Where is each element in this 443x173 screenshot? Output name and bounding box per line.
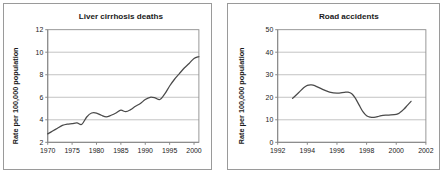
svg-text:2: 2 [39, 139, 43, 146]
svg-text:1994: 1994 [300, 147, 316, 154]
liver-cirrhosis-chart: Liver cirrhosis deaths Rate per 100,000 … [4, 4, 211, 169]
svg-text:10: 10 [266, 116, 274, 123]
svg-text:12: 12 [36, 26, 44, 33]
svg-text:1970: 1970 [40, 147, 56, 154]
svg-text:6: 6 [39, 94, 43, 101]
figure-container: Liver cirrhosis deaths Rate per 100,000 … [0, 0, 443, 173]
y-axis-label-road-accidents: Rate per 100,000 population [237, 47, 246, 144]
svg-text:0: 0 [269, 139, 273, 146]
svg-text:20: 20 [266, 94, 274, 101]
x-axis-ticks-road-accidents: 199219941996199820002002 [270, 142, 434, 154]
svg-text:1998: 1998 [359, 147, 375, 154]
chart-panel-road-accidents: Road accidents Rate per 100,000 populati… [227, 3, 440, 170]
svg-text:8: 8 [39, 71, 43, 78]
x-axis-ticks-liver-cirrhosis: 1970197519801985199019952000 [40, 142, 202, 154]
svg-text:1980: 1980 [89, 147, 105, 154]
svg-text:10: 10 [36, 49, 44, 56]
y-axis-ticks-liver-cirrhosis: 24681012 [36, 26, 48, 146]
svg-text:4: 4 [39, 116, 43, 123]
svg-text:1995: 1995 [162, 147, 178, 154]
y-axis-label-liver-cirrhosis: Rate per 100,000 population [11, 47, 20, 144]
road-accidents-chart: Road accidents Rate per 100,000 populati… [228, 4, 439, 169]
svg-text:2000: 2000 [389, 147, 405, 154]
svg-text:50: 50 [266, 26, 274, 33]
gridlines-liver-cirrhosis [48, 52, 199, 120]
data-series-road-accidents [292, 85, 411, 117]
svg-text:1992: 1992 [270, 147, 286, 154]
chart-panel-liver-cirrhosis: Liver cirrhosis deaths Rate per 100,000 … [3, 3, 212, 170]
svg-text:1975: 1975 [64, 147, 80, 154]
plot-frame-liver-cirrhosis [48, 30, 199, 143]
data-series-liver-cirrhosis [48, 57, 199, 134]
chart-title-road-accidents: Road accidents [319, 12, 379, 21]
svg-text:1985: 1985 [113, 147, 129, 154]
svg-text:40: 40 [266, 49, 274, 56]
svg-text:30: 30 [266, 71, 274, 78]
y-axis-ticks-road-accidents: 01020304050 [266, 26, 278, 146]
chart-title-liver-cirrhosis: Liver cirrhosis deaths [79, 12, 164, 21]
svg-text:1990: 1990 [138, 147, 154, 154]
svg-text:1996: 1996 [329, 147, 345, 154]
svg-text:2002: 2002 [418, 147, 434, 154]
plot-frame-road-accidents [278, 30, 426, 143]
svg-text:2000: 2000 [186, 147, 202, 154]
